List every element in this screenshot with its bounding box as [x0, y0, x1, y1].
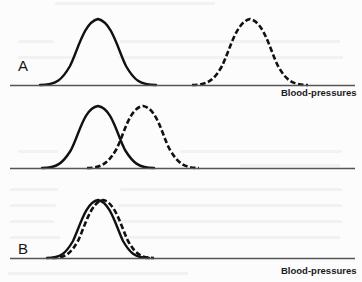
panel-b-solid-curve	[42, 106, 154, 168]
panel-a: A Blood-pressures	[0, 0, 362, 95]
panel-a-solid-curve	[40, 19, 156, 85]
blood-pressure-distribution-figure: A Blood-pressures B Blood-pressures C Bl…	[0, 0, 362, 282]
panel-c-plot	[0, 183, 362, 282]
panel-a-dashed-curve	[192, 19, 308, 85]
panel-c: C Blood-pressures	[0, 183, 362, 282]
panel-b: B Blood-pressures	[0, 95, 362, 183]
panel-b-dashed-curve	[87, 106, 199, 168]
panel-b-plot	[0, 95, 362, 183]
panel-a-letter: A	[18, 58, 28, 73]
panel-a-plot	[0, 0, 362, 95]
